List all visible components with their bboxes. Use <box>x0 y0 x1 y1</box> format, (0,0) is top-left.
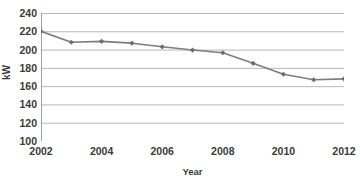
x-axis-title: Year <box>41 166 344 177</box>
chart-title <box>0 0 348 3</box>
y-axis-tick-label: 240 <box>10 8 37 18</box>
x-axis-tick-label: 2012 <box>324 145 360 157</box>
plot-area <box>41 13 344 141</box>
data-point-marker <box>41 29 44 34</box>
data-point-marker <box>160 44 165 49</box>
x-axis-tick-label: 2008 <box>203 145 243 157</box>
data-point-marker <box>220 50 225 55</box>
x-axis-tick-label: 2010 <box>263 145 303 157</box>
data-point-marker <box>311 77 316 82</box>
data-point-marker <box>281 72 286 77</box>
plot-svg <box>41 13 344 141</box>
y-axis-tick-label: 200 <box>10 45 37 55</box>
x-axis-tick-label: 2004 <box>82 145 122 157</box>
y-axis-tick-label: 140 <box>10 99 37 109</box>
x-axis-tick-label: 2006 <box>142 145 182 157</box>
data-point-markers <box>41 29 344 83</box>
x-axis-tick-label: 2002 <box>21 145 61 157</box>
data-point-marker <box>99 39 104 44</box>
data-point-marker <box>190 47 195 52</box>
x-axis-tick-labels: 200220042006200820102012 <box>41 145 344 161</box>
data-point-marker <box>341 76 344 81</box>
data-point-marker <box>129 41 134 46</box>
data-series-line <box>41 31 344 79</box>
y-axis-tick-label: 220 <box>10 26 37 36</box>
y-axis-tick-label: 180 <box>10 63 37 73</box>
y-axis-tick-label: 160 <box>10 81 37 91</box>
data-point-marker <box>69 40 74 45</box>
data-point-marker <box>251 61 256 66</box>
y-axis-tick-label: 120 <box>10 118 37 128</box>
y-axis-tick-labels: 240220200180160140120100 <box>10 13 37 141</box>
